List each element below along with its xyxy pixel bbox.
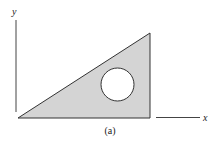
circular-hole xyxy=(101,68,134,101)
x-axis-label: x xyxy=(202,112,208,123)
figure-caption: (a) xyxy=(104,125,115,137)
triangle-diagram: y x (a) xyxy=(0,0,224,146)
y-axis-label: y xyxy=(11,6,17,17)
